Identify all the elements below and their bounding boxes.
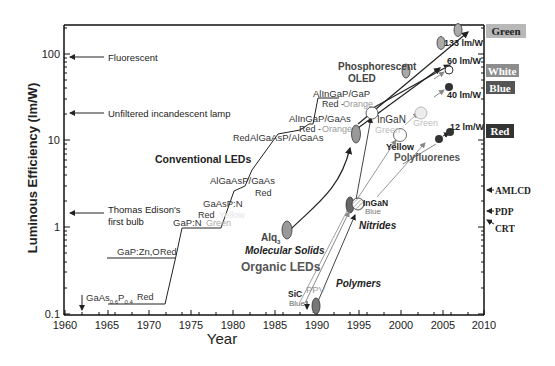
x-tick: 1975 (179, 319, 203, 331)
gaaspn-label: GaAsP:N (203, 198, 243, 209)
alingapgaas-label: AlInGaP/GaAs (289, 113, 351, 124)
amlcd-label: AMLCD (495, 186, 531, 196)
ingan-green-label: InGaN (377, 114, 406, 125)
conventional-leds-title: Conventional LEDs (155, 153, 251, 165)
color-legend: Green White Blue Red (486, 24, 526, 138)
alingapgaas-red: Red - (299, 124, 321, 134)
x-tick: 2000 (389, 319, 413, 331)
crt-label: CRT (495, 224, 515, 234)
alq3-label: Alq3 (261, 232, 281, 245)
phosphorescent-marker-3 (454, 24, 462, 37)
polymers-label: Polymers (336, 278, 381, 289)
x-tick: 1960 (53, 319, 77, 331)
lm12-label: 12 lm/W (450, 122, 485, 132)
algaaspalgaas-red: Red (233, 133, 250, 143)
ingan-blue-color: Blue (365, 207, 382, 216)
alingapgaas-orange: Orange (322, 124, 352, 134)
y-axis-title: Luminous Efficiency (lm/W) (25, 83, 40, 253)
gapzno-color: Red (160, 247, 177, 257)
yellow-label: Yellow (386, 142, 415, 152)
x-tick-labels: 1960 1965 1970 1975 1980 1985 1990 1995 … (53, 319, 496, 331)
y-tick: 0.1 (45, 308, 60, 320)
gaas-label: GaAs0.6P0.4 (86, 292, 133, 305)
gaaspn-yellow: Yellow (219, 210, 245, 220)
green-target-label: Green (413, 118, 438, 128)
gapzno-label: GaP:Zn,O (117, 246, 160, 257)
polyfluorenes-label: Polyfluorenes (394, 152, 461, 163)
x-tick: 1990 (305, 319, 329, 331)
ingan-green-color: Green (375, 125, 400, 135)
alingapgaas-marker (352, 125, 361, 143)
pdp-label: PDP (495, 207, 514, 217)
white-target-marker (445, 66, 453, 74)
phosphorescent-label-2: OLED (348, 73, 376, 84)
polyfluorene-red-marker-1 (435, 135, 443, 143)
sic-color: Blue (289, 299, 306, 308)
x-tick: 2005 (431, 319, 455, 331)
legend-white: White (488, 65, 517, 77)
x-tick: 1965 (95, 319, 119, 331)
lm133-label: 133 lm/W (444, 38, 484, 48)
x-tick: 1985 (263, 319, 287, 331)
edison-label-line2: first bulb (108, 216, 144, 227)
phosphorescent-label-1: Phosphorescent (338, 61, 417, 72)
molecular-solids-label: Molecular Solids (245, 245, 325, 256)
y-tick: 100 (42, 48, 60, 60)
nitrides-label: Nitrides (359, 220, 397, 231)
algaaspgaas-color: Red (255, 188, 272, 198)
alq3-marker (282, 221, 292, 239)
edison-label-line1: Thomas Edison's (108, 204, 181, 215)
gaaspn-red: Red (198, 210, 215, 220)
legend-red: Red (491, 125, 510, 137)
x-tick: 1995 (347, 319, 371, 331)
lm40-label: 40 lm/W (447, 90, 482, 100)
algaaspgaas-label: AlGaAsP/GaAs (210, 175, 275, 186)
gaas-color: Red (137, 292, 154, 302)
fluorescent-label: Fluorescent (108, 52, 158, 63)
alingapgap-orange: Orange (343, 99, 373, 109)
ppv-label: PPV (306, 284, 326, 295)
legend-blue: Blue (489, 82, 511, 94)
x-tick: 2010 (472, 319, 496, 331)
sic-marker (312, 298, 320, 314)
legend-green: Green (491, 25, 520, 37)
organic-leds-label: Organic LEDs (241, 260, 321, 274)
luminous-efficiency-chart: 1960 1965 1970 1975 1980 1985 1990 1995 … (0, 0, 555, 366)
alingapgap-label: AlInGaP/GaP (313, 88, 370, 99)
incandescent-label: Unfiltered incandescent lamp (108, 108, 231, 119)
x-axis-title: Year (207, 330, 237, 347)
organic-and-nitride-labels: Phosphorescent OLED 133 lm/W 60 lm/W 40 … (241, 38, 485, 308)
alingapgap-red: Red - (322, 99, 344, 109)
y-tick-labels: 0.1 1 10 100 (42, 48, 60, 320)
x-tick: 1970 (137, 319, 161, 331)
lm60-label: 60 lm/W (447, 56, 482, 66)
y-tick: 1 (54, 221, 60, 233)
sic-label: SiC (288, 289, 302, 299)
y-tick: 10 (48, 134, 60, 146)
right-reference-arrows: AMLCD PDP CRT (487, 186, 531, 234)
